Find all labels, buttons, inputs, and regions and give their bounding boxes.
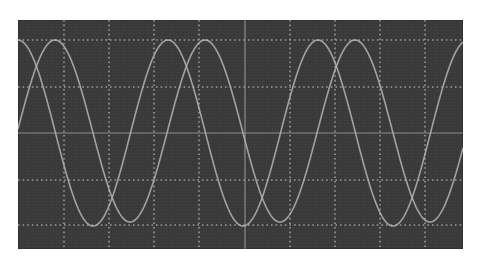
waveform-plot: [18, 20, 463, 249]
oscilloscope-screen: [18, 20, 463, 249]
screen-texture: [18, 20, 463, 249]
